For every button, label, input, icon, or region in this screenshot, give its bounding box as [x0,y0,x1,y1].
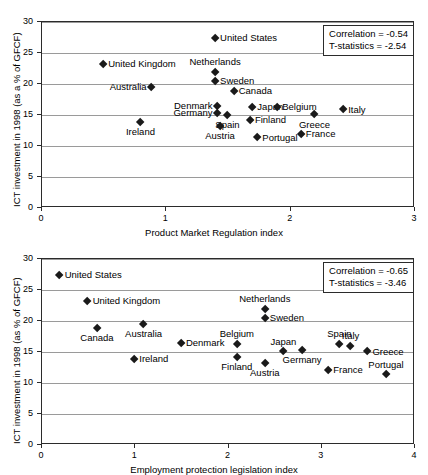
data-point-label: Italy [348,105,365,115]
data-point-label: Germany [173,108,212,118]
x-axis-title: Employment protection legislation index [0,464,428,475]
x-axis-tick-label: 3 [404,214,424,223]
data-point-label: Austria [250,368,280,378]
data-point-label: Finland [221,362,252,372]
y-axis-title: ICT investment in 1998 (as % of GFCF) [11,277,22,444]
data-point-label: Netherlands [189,57,240,67]
data-point-label: United States [220,33,277,43]
data-point-label: Canada [239,86,272,96]
y-axis-tick [37,351,41,352]
y-axis-tick [37,176,41,177]
y-axis-tick [37,21,41,22]
gridline [42,321,413,322]
correlation-value: Correlation = -0.65 [329,265,408,277]
y-axis-title: ICT investment in 1998 (as a % of GFCF) [11,32,22,207]
x-axis-tick [414,207,415,211]
y-axis-tick-label: 30 [13,254,33,263]
y-axis-tick [37,83,41,84]
stats-annotation-box: Correlation = -0.54T-statistics = -2.54 [323,25,414,56]
x-axis-tick [290,207,291,211]
stats-annotation-box: Correlation = -0.65T-statistics = -3.46 [323,262,414,293]
chart-product-market-regulation: 0510152025300123Product Market Regulatio… [0,0,428,233]
data-point-label: United Kingdom [93,296,161,306]
gridline [42,352,413,353]
data-point-label: Ireland [126,127,155,137]
x-axis-tick-label: 2 [218,451,238,460]
data-point-label: Italy [342,331,359,341]
data-point-label: Denmark [186,338,225,348]
t-statistics-value: T-statistics = -2.54 [329,40,408,52]
y-axis-tick [37,289,41,290]
x-axis-tick [134,444,135,448]
gridline [42,22,413,23]
x-axis-tick [321,444,322,448]
y-axis-tick [37,382,41,383]
data-point-label: United Kingdom [108,59,176,69]
x-axis-tick-label: 4 [404,451,424,460]
gridline [42,383,413,384]
data-point-label: Japan [270,337,296,347]
data-point-label: Canada [80,333,113,343]
y-axis-tick [37,320,41,321]
y-axis-tick [37,52,41,53]
data-point-label: Belgium [220,329,254,339]
data-point-label: United States [65,270,122,280]
y-axis-tick [37,413,41,414]
data-point-label: Australia [125,329,162,339]
correlation-value: Correlation = -0.54 [329,28,408,40]
data-point-label: Ireland [139,354,168,364]
data-point-label: Netherlands [239,294,290,304]
data-point-label: Portugal [368,360,403,370]
data-point-label: France [333,365,363,375]
x-axis-tick-label: 3 [311,451,331,460]
y-axis-tick [37,145,41,146]
y-axis-tick [37,258,41,259]
data-point-label: Austria [205,131,235,141]
x-axis-tick-label: 0 [31,451,51,460]
x-axis-tick [165,207,166,211]
y-axis-tick [37,114,41,115]
gridline [42,177,413,178]
data-point-label: Australia [110,82,147,92]
gridline [42,146,413,147]
data-point-label: Sweden [270,313,304,323]
data-point-label: Finland [255,115,286,125]
x-axis-tick [41,444,42,448]
x-axis-tick-label: 1 [124,451,144,460]
data-point-label: France [306,129,336,139]
x-axis-tick [414,444,415,448]
x-axis-tick [228,444,229,448]
x-axis-tick-label: 2 [280,214,300,223]
chart-employment-protection: 05101520253001234Employment protection l… [0,233,428,466]
t-statistics-value: T-statistics = -3.46 [329,277,408,289]
x-axis-tick [41,207,42,211]
y-axis-tick-label: 30 [13,17,33,26]
gridline [42,414,413,415]
data-point-label: Germany [283,355,322,365]
data-point-label: Portugal [262,133,297,143]
x-axis-tick-label: 1 [155,214,175,223]
x-axis-tick-label: 0 [31,214,51,223]
data-point-label: Greece [372,347,403,357]
gridline [42,259,413,260]
